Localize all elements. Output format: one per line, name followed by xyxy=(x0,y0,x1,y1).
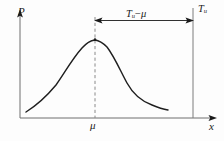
peak-marker-dot xyxy=(94,38,97,41)
upper-limit-label-subscript: u xyxy=(204,7,207,14)
y-axis-label: P xyxy=(18,6,25,17)
upper-limit-label: Tu xyxy=(198,4,207,15)
figure-container: P x μ Tu−μ Tu xyxy=(0,0,224,141)
span-label: Tu−μ xyxy=(126,9,146,20)
density-curve xyxy=(26,40,168,112)
x-axis-label: x xyxy=(209,121,214,132)
span-label-tail: μ xyxy=(141,8,146,19)
probability-density-figure xyxy=(0,0,224,141)
mean-label: μ xyxy=(90,120,96,131)
